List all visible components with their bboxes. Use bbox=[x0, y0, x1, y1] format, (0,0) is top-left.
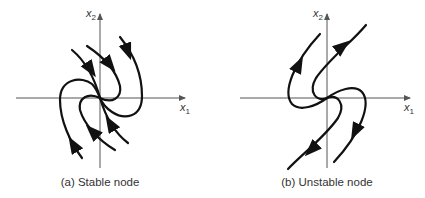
caption-stable-node: (a) Stable node bbox=[61, 176, 140, 188]
trajectory-lower-left bbox=[288, 97, 341, 169]
x2-axis-label: x2 bbox=[313, 7, 323, 22]
trajectory-outer-left bbox=[60, 80, 100, 158]
x2-axis-label: x2 bbox=[86, 7, 96, 22]
trajectory-outer-right bbox=[100, 37, 142, 116]
panel-stable-node: x2 x1 (a) Stable node bbox=[0, 0, 212, 198]
x1-axis-label: x1 bbox=[180, 101, 190, 116]
x1-axis-label: x1 bbox=[404, 101, 414, 116]
stable-node-phase-portrait bbox=[0, 0, 212, 198]
unstable-node-phase-portrait bbox=[212, 0, 425, 198]
caption-unstable-node: (b) Unstable node bbox=[281, 176, 372, 188]
trajectory-upper-right bbox=[313, 25, 366, 99]
panel-unstable-node: x2 x1 (b) Unstable node bbox=[212, 0, 425, 198]
trajectory-upper-middle bbox=[87, 46, 120, 100]
